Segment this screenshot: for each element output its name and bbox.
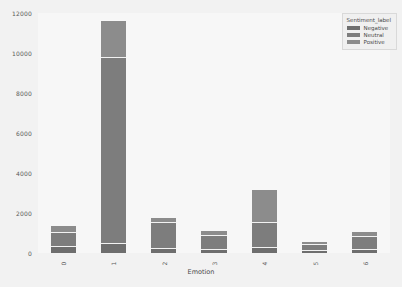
legend-swatch xyxy=(347,40,360,44)
bar-segment[interactable] xyxy=(252,248,277,253)
y-tick-label: 4000 xyxy=(0,170,32,177)
bar-segment[interactable] xyxy=(101,21,126,58)
axes xyxy=(38,13,390,253)
bar-segment[interactable] xyxy=(101,244,126,253)
bar-group[interactable] xyxy=(151,218,176,253)
y-tick-label: 12000 xyxy=(0,10,32,17)
legend[interactable]: Sentiment_label NegativeNeutralPositive xyxy=(342,13,397,50)
legend-label: Positive xyxy=(364,39,385,45)
bar-segment[interactable] xyxy=(151,249,176,253)
bar-segment[interactable] xyxy=(51,233,76,247)
bar-group[interactable] xyxy=(252,190,277,253)
y-tick-label: 8000 xyxy=(0,90,32,97)
legend-label: Negative xyxy=(364,25,389,31)
legend-item[interactable]: Negative xyxy=(347,25,391,31)
legend-rows: NegativeNeutralPositive xyxy=(347,25,391,45)
bar-segment[interactable] xyxy=(201,236,226,250)
bars-layer xyxy=(38,13,390,253)
bar-segment[interactable] xyxy=(352,237,377,250)
bar-segment[interactable] xyxy=(51,247,76,253)
legend-item[interactable]: Neutral xyxy=(347,32,391,38)
x-axis-label: Emotion xyxy=(0,268,402,276)
legend-swatch xyxy=(347,33,360,37)
bar-segment[interactable] xyxy=(352,250,377,253)
y-tick-label: 0 xyxy=(0,250,32,257)
y-tick-label: 10000 xyxy=(0,50,32,57)
bar-segment[interactable] xyxy=(252,223,277,249)
legend-item[interactable]: Positive xyxy=(347,39,391,45)
figure: 020004000600080001000012000 0123456 Emot… xyxy=(0,0,402,287)
bar-group[interactable] xyxy=(101,21,126,253)
bar-segment[interactable] xyxy=(51,226,76,233)
legend-swatch xyxy=(347,26,360,30)
bar-group[interactable] xyxy=(51,226,76,253)
bar-segment[interactable] xyxy=(252,190,277,223)
bar-group[interactable] xyxy=(352,232,377,253)
bar-group[interactable] xyxy=(201,231,226,253)
legend-title: Sentiment_label xyxy=(347,17,391,23)
bar-group[interactable] xyxy=(302,242,327,253)
legend-label: Neutral xyxy=(364,32,384,38)
y-tick-label: 6000 xyxy=(0,130,32,137)
bar-segment[interactable] xyxy=(101,58,126,245)
y-tick-label: 2000 xyxy=(0,210,32,217)
bar-segment[interactable] xyxy=(151,223,176,249)
